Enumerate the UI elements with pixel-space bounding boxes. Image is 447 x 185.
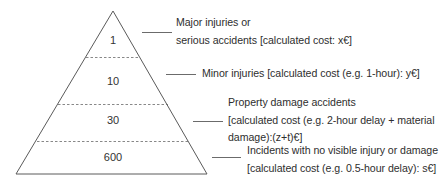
label-line: Property damage accidents: [228, 94, 434, 112]
label-line: [calculated cost (e.g. 2-hour delay + ma…: [228, 112, 434, 130]
tier-count-2: 10: [107, 75, 119, 87]
tier-label-major-injuries: Major injuries or serious accidents [cal…: [176, 14, 352, 49]
label-line: Major injuries or: [176, 14, 352, 32]
tier-label-property-damage: Property damage accidents [calculated co…: [228, 94, 434, 147]
tier-count-4: 600: [104, 151, 122, 163]
label-line: Minor injuries [calculated cost (e.g. 1-…: [202, 65, 420, 83]
tier-count-1: 1: [110, 34, 116, 46]
tier-count-3: 30: [107, 114, 119, 126]
tier-label-no-visible-injury: Incidents with no visible injury or dama…: [247, 142, 438, 177]
label-line: Incidents with no visible injury or dama…: [247, 142, 438, 160]
label-line: serious accidents [calculated cost: x€]: [176, 32, 352, 50]
label-line: [calculated cost (e.g. 0.5-hour delay): …: [247, 160, 438, 178]
tier-label-minor-injuries: Minor injuries [calculated cost (e.g. 1-…: [202, 65, 420, 83]
